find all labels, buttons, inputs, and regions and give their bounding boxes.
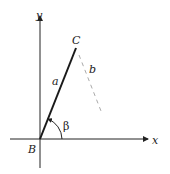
- diagram: y x C B a b β: [0, 0, 170, 174]
- y-axis-label: y: [35, 9, 43, 22]
- segment-label-a: a: [52, 75, 59, 88]
- point-label-c: C: [72, 34, 81, 47]
- x-axis-label: x: [152, 134, 159, 147]
- angle-arc-beta: [48, 119, 62, 139]
- angle-label-beta: β: [63, 120, 69, 133]
- segment-label-b: b: [89, 63, 96, 76]
- diagram-canvas: y x C B a b β: [0, 0, 170, 174]
- point-label-b: B: [27, 143, 36, 156]
- segment-a: [40, 48, 76, 139]
